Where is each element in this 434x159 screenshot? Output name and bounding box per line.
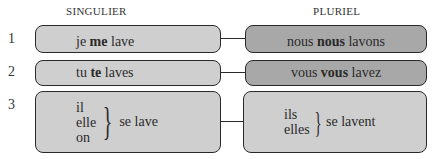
connector-2 — [221, 72, 245, 73]
subject-il: il — [76, 100, 96, 115]
reflexive-pronoun: me — [90, 34, 108, 50]
subject-list: ils elles — [284, 107, 310, 137]
reflexive-pronoun: vous — [321, 65, 348, 81]
subject-group: ils elles } se lavent — [284, 107, 375, 137]
brace-icon: } — [314, 107, 321, 137]
row-number-2: 2 — [8, 64, 15, 80]
reflexive-pronoun: nous — [317, 34, 345, 50]
subject: tu — [76, 65, 87, 81]
subject-ils: ils — [284, 107, 310, 122]
subject: nous — [287, 34, 313, 50]
plural-box-1: nous nous lavons — [245, 25, 427, 53]
subject-on: on — [76, 130, 96, 145]
singular-box-3: il elle on } se lave — [35, 91, 221, 153]
verb: lave — [111, 34, 134, 50]
subject: vous — [291, 65, 317, 81]
verb-phrase: se lave — [119, 114, 157, 130]
header-singular: SINGULIER — [66, 5, 127, 17]
subject-elles: elles — [284, 122, 310, 137]
verb: lavez — [352, 65, 382, 81]
subject-group: il elle on } se lave — [76, 100, 158, 145]
verb-phrase: se lavent — [326, 114, 375, 130]
subject: je — [76, 34, 86, 50]
plural-box-2: vous vous lavez — [245, 60, 427, 86]
singular-box-2: tu te laves — [35, 60, 221, 86]
reflexive-pronoun: te — [90, 65, 101, 81]
header-plural: PLURIEL — [313, 5, 360, 17]
connector-3 — [221, 121, 243, 122]
connector-1 — [221, 38, 245, 39]
brace-icon: } — [103, 102, 113, 142]
singular-box-1: je me lave — [35, 25, 221, 53]
verb: lavons — [348, 34, 385, 50]
subject-list: il elle on — [76, 100, 96, 145]
verb: laves — [105, 65, 134, 81]
row-number-3: 3 — [8, 97, 15, 113]
row-number-1: 1 — [8, 31, 15, 47]
subject-elle: elle — [76, 115, 96, 130]
plural-box-3: ils elles } se lavent — [243, 91, 427, 153]
